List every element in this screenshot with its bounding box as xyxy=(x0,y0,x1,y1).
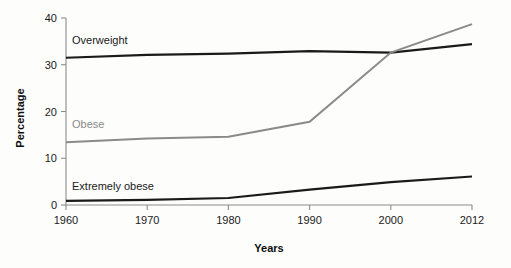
y-tick-label: 20 xyxy=(45,106,57,118)
chart-container: 010203040 196019701980199020002012 Overw… xyxy=(0,0,511,268)
x-tick-label: 1980 xyxy=(216,214,240,226)
series-label-overweight: Overweight xyxy=(72,34,128,46)
series-lines-group xyxy=(66,24,472,201)
series-label-obese: Obese xyxy=(72,118,104,130)
series-label-extremely-obese: Extremely obese xyxy=(72,180,154,192)
x-tick-label: 1960 xyxy=(54,214,78,226)
line-chart-svg: 010203040 196019701980199020002012 Overw… xyxy=(0,0,511,268)
x-axis-ticks: 196019701980199020002012 xyxy=(54,205,484,226)
y-tick-label: 0 xyxy=(51,199,57,211)
y-tick-label: 30 xyxy=(45,59,57,71)
x-axis-title: Years xyxy=(254,242,283,254)
x-tick-label: 1990 xyxy=(297,214,321,226)
x-tick-label: 1970 xyxy=(135,214,159,226)
x-tick-label: 2000 xyxy=(379,214,403,226)
y-tick-label: 40 xyxy=(45,12,57,24)
y-axis-title: Percentage xyxy=(14,88,26,147)
x-tick-label: 2012 xyxy=(460,214,484,226)
y-axis-ticks: 010203040 xyxy=(45,12,66,211)
y-tick-label: 10 xyxy=(45,152,57,164)
